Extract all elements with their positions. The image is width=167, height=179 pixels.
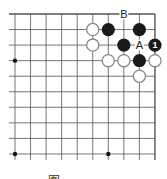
- white-stone: [149, 55, 161, 67]
- black-stone: [102, 23, 115, 36]
- board-grid: [9, 14, 155, 160]
- white-stone: [87, 23, 99, 35]
- white-stone: [118, 55, 130, 67]
- black-stone: 1: [148, 39, 161, 52]
- figure-caption-clipped: 图: [48, 175, 120, 179]
- figure-caption: 图: [48, 175, 120, 179]
- move-number: 1: [152, 40, 157, 50]
- white-stone: [102, 55, 114, 67]
- star-point: [13, 152, 17, 156]
- black-stone: [133, 54, 146, 67]
- star-point: [13, 58, 17, 62]
- point-label-b: B: [120, 8, 127, 20]
- star-point: [106, 152, 110, 156]
- white-stone: [87, 39, 99, 51]
- black-stone: [133, 23, 146, 36]
- go-board-diagram: 1 BA: [0, 0, 167, 179]
- black-stone: [117, 39, 130, 52]
- white-stone: [133, 70, 145, 82]
- point-label-a: A: [136, 39, 144, 51]
